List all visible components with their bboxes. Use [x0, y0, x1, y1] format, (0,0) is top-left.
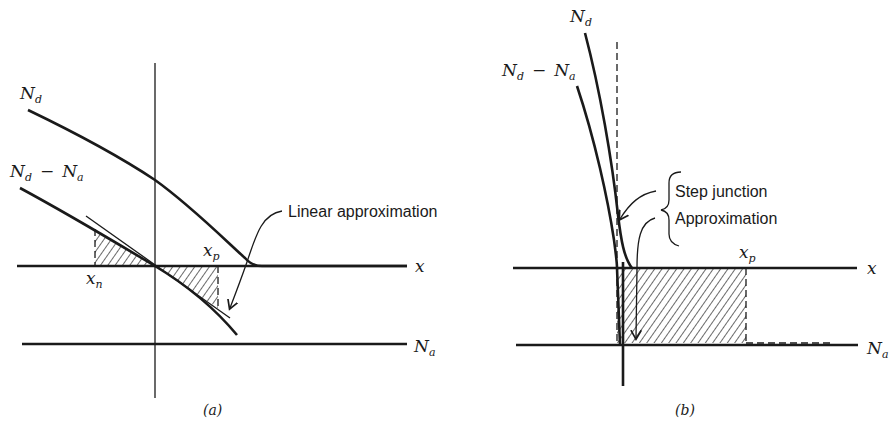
annotation-step-junction: Step junction — [675, 183, 768, 200]
label-nd-minus-na-b: Nd−Na — [501, 60, 576, 83]
panel-b: Nd Nd−Na Step junction Approximation xp … — [501, 6, 888, 418]
linear-approx-arrow — [230, 211, 282, 308]
label-nd: Nd — [19, 83, 42, 106]
label-nd-minus-na: Nd−Na — [9, 161, 84, 184]
annotation-linear-approximation: Linear approximation — [288, 203, 437, 220]
panel-a: Nd Nd−Na Linear approximation xp xn x Na… — [9, 63, 437, 418]
label-xp-b: xp — [739, 242, 756, 265]
label-na: Na — [413, 336, 435, 359]
label-x-axis: x — [415, 256, 425, 276]
label-x-axis-b: x — [867, 258, 877, 278]
step-junction-arrow — [620, 191, 656, 219]
junction-diagram: Nd Nd−Na Linear approximation xp xn x Na… — [0, 0, 891, 427]
nd-minus-na-curve-b — [577, 86, 620, 345]
caption-b: (b) — [675, 402, 695, 418]
label-xp: xp — [203, 240, 220, 263]
label-na-b: Na — [866, 338, 888, 361]
label-nd-b: Nd — [569, 6, 592, 29]
label-xn: xn — [86, 268, 103, 291]
nd-curve — [28, 110, 407, 266]
caption-a: (a) — [203, 402, 222, 418]
nd-curve-b — [585, 33, 632, 268]
annotation-approximation: Approximation — [675, 210, 777, 227]
